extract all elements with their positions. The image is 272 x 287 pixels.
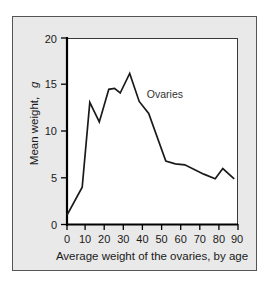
x-tick-label-30: 30 <box>117 233 129 245</box>
plot-area-background <box>66 38 238 225</box>
figure-container: 0 5 10 15 20 0 10 20 30 40 50 60 70 80 9… <box>0 0 272 287</box>
y-tick-label-0: 0 <box>51 219 57 231</box>
x-tick-label-40: 40 <box>136 233 148 245</box>
x-tick-label-0: 0 <box>64 233 70 245</box>
x-tick-label-80: 80 <box>213 233 225 245</box>
y-axis-title-unit: g <box>28 81 40 88</box>
y-tick-label-20: 20 <box>45 33 57 45</box>
y-tick-label-5: 5 <box>51 172 57 184</box>
x-tick-label-60: 60 <box>175 233 187 245</box>
chart-plot: 0 5 10 15 20 0 10 20 30 40 50 60 70 80 9… <box>0 0 272 287</box>
x-axis-title: Average weight of the ovaries, by age <box>56 250 248 262</box>
y-axis-title: Mean weight, <box>28 97 40 165</box>
x-tick-label-20: 20 <box>98 233 110 245</box>
x-tick-label-50: 50 <box>155 233 167 245</box>
y-tick-label-10: 10 <box>45 125 57 137</box>
x-tick-label-90: 90 <box>231 233 243 245</box>
y-axis-title-group: Mean weight, g <box>28 81 40 165</box>
series-annotation-ovaries: Ovaries <box>147 88 183 100</box>
x-tick-label-70: 70 <box>194 233 206 245</box>
x-tick-label-10: 10 <box>79 233 91 245</box>
y-tick-label-15: 15 <box>45 78 57 90</box>
